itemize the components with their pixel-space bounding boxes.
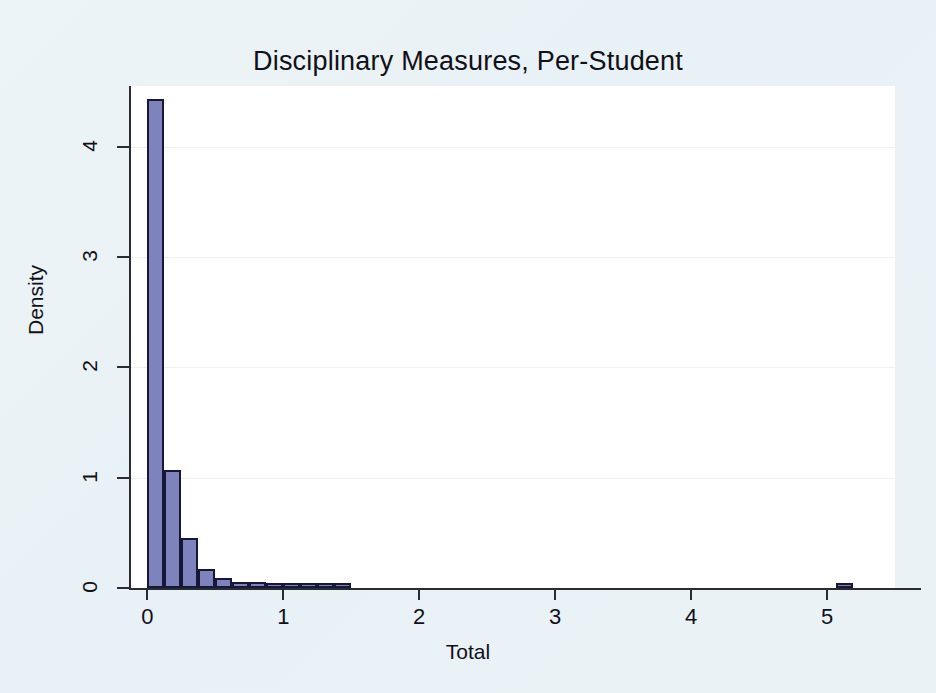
- x-axis-title: Total: [0, 640, 936, 664]
- histogram-bar: [181, 538, 198, 588]
- x-tick-mark-0: [146, 589, 148, 600]
- y-axis-line: [129, 86, 131, 590]
- gridline-y-3: [131, 257, 895, 258]
- x-tick-label: 4: [671, 604, 711, 630]
- gridline-y-2: [131, 367, 895, 368]
- histogram-bar: [215, 578, 232, 588]
- x-tick-label: 3: [535, 604, 575, 630]
- y-tick-label: 1: [78, 463, 102, 491]
- x-tick-mark-5: [826, 589, 828, 600]
- x-tick-label: 1: [263, 604, 303, 630]
- gridline-y-1: [131, 478, 895, 479]
- y-tick-mark-1: [117, 477, 130, 479]
- histogram-bar: [164, 470, 181, 588]
- y-tick-label: 4: [78, 132, 102, 160]
- histogram-figure: Disciplinary Measures, Per-Student 01234…: [0, 0, 936, 693]
- y-tick-mark-3: [117, 256, 130, 258]
- y-tick-label: 3: [78, 242, 102, 270]
- x-tick-mark-2: [418, 589, 420, 600]
- histogram-bar: [198, 569, 215, 588]
- x-tick-mark-4: [690, 589, 692, 600]
- gridline-y-4: [131, 147, 895, 148]
- x-tick-label: 2: [399, 604, 439, 630]
- y-axis-title: Density: [24, 265, 48, 335]
- chart-title: Disciplinary Measures, Per-Student: [0, 46, 936, 77]
- y-tick-label: 0: [78, 573, 102, 601]
- x-tick-label: 0: [127, 604, 167, 630]
- y-tick-mark-0: [117, 587, 130, 589]
- x-tick-mark-3: [554, 589, 556, 600]
- x-tick-mark-1: [282, 589, 284, 600]
- histogram-bar: [147, 99, 164, 588]
- y-tick-label: 2: [78, 352, 102, 380]
- x-tick-label: 5: [807, 604, 847, 630]
- x-axis-line: [131, 588, 921, 590]
- y-tick-mark-2: [117, 366, 130, 368]
- y-tick-mark-4: [117, 146, 130, 148]
- plot-area: [131, 86, 895, 588]
